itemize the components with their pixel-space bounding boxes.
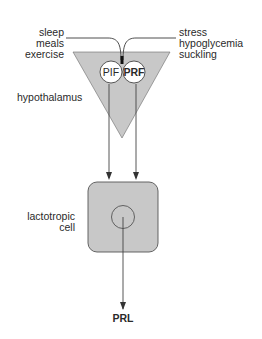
hypothalamus-label: hypothalamus [17,92,82,103]
hypothalamus-triangle [73,52,170,138]
pif-label: PIF [100,67,122,78]
left-inputs-label: sleep meals exercise [8,27,64,60]
input-suckling: suckling [179,49,243,60]
cell-label-line2: cell [10,222,75,233]
cell-label: lactotropic cell [10,211,75,233]
pif-arrowhead [106,172,112,180]
right-inputs-label: stress hypoglycemia suckling [179,27,243,60]
prl-label: PRL [112,313,134,324]
prf-label: PRF [123,67,145,78]
prl-arrowhead [120,302,126,310]
prf-arrowhead [133,172,139,180]
junction-mark [121,56,124,64]
input-exercise: exercise [8,49,64,60]
